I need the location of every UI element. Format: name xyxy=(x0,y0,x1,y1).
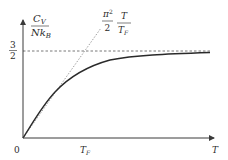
x-axis-label: T xyxy=(212,145,219,155)
svg-text:NkB: NkB xyxy=(30,27,51,40)
svg-text:2: 2 xyxy=(105,23,111,33)
svg-text:2: 2 xyxy=(10,51,16,61)
svg-text:3: 3 xyxy=(10,40,16,50)
heat-capacity-curve xyxy=(23,53,210,139)
fermi-temperature-label: TF xyxy=(80,145,91,156)
svg-text:CV: CV xyxy=(33,13,47,26)
heat-capacity-diagram: CV NkB 3 2 π2 2 T TF 0 TF T xyxy=(0,0,228,160)
origin-label: 0 xyxy=(14,145,20,155)
linear-approximation-label: π2 2 T TF xyxy=(102,8,131,36)
asymptote-label: 3 2 xyxy=(9,40,17,61)
svg-text:TF: TF xyxy=(118,25,129,36)
svg-text:π2: π2 xyxy=(102,8,113,19)
svg-text:T: T xyxy=(121,11,128,21)
linear-approximation-line xyxy=(23,28,101,138)
y-axis-label: CV NkB xyxy=(30,13,51,40)
